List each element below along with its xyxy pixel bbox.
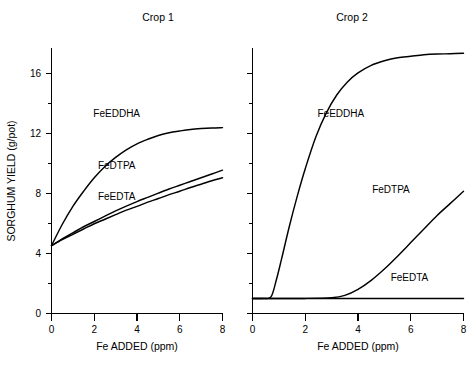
y-tick-label-0: 0 bbox=[35, 308, 41, 319]
x-tick-label-0: 0 bbox=[250, 324, 256, 335]
y-axis-title: SORGHUM YIELD (g/pot) bbox=[5, 120, 17, 241]
panel-1-curves bbox=[52, 128, 223, 246]
panel-2-y-major-ticks bbox=[247, 74, 253, 314]
curve-crop1-feedta bbox=[52, 178, 223, 246]
curve-crop2-fedtpa bbox=[253, 191, 464, 298]
panel-1-y-tick-labels: 0 4 8 12 16 bbox=[30, 68, 42, 319]
series-label-crop2-feedta: FeEDTA bbox=[391, 272, 429, 283]
chart-svg: Crop 1 SORGHUM YIELD (g/pot) bbox=[0, 0, 474, 371]
series-label-crop1-feeddha: FeEDDHA bbox=[93, 108, 140, 119]
panel-2-series-labels: FeEDDHA FeDTPA FeEDTA bbox=[318, 108, 429, 283]
x-tick-label-6: 6 bbox=[408, 324, 414, 335]
panel-1-title: Crop 1 bbox=[142, 11, 174, 23]
sorghum-yield-figure: Crop 1 SORGHUM YIELD (g/pot) bbox=[0, 0, 474, 371]
x-tick-label-0: 0 bbox=[49, 324, 55, 335]
x-tick-label-2: 2 bbox=[302, 324, 308, 335]
curve-crop2-feeddha bbox=[253, 53, 464, 298]
panel-2-x-tick-labels: 0 2 4 6 8 bbox=[250, 324, 467, 335]
curve-crop1-fedtpa bbox=[52, 170, 223, 245]
panel-1-x-axis-title: Fe ADDED (ppm) bbox=[96, 340, 178, 352]
x-tick-label-6: 6 bbox=[177, 324, 183, 335]
x-tick-label-4: 4 bbox=[355, 324, 361, 335]
y-tick-label-8: 8 bbox=[35, 188, 41, 199]
series-label-crop2-feeddha: FeEDDHA bbox=[318, 108, 365, 119]
y-tick-label-4: 4 bbox=[35, 248, 41, 259]
panel-2-x-axis-title: Fe ADDED (ppm) bbox=[317, 340, 399, 352]
panel-crop-2: Crop 2 bbox=[247, 11, 467, 352]
panel-2-curves bbox=[253, 53, 464, 298]
panel-2-x-major-ticks bbox=[253, 314, 464, 321]
panel-1-series-labels: FeEDDHA FeDTPA FeEDTA bbox=[93, 108, 140, 201]
y-tick-label-12: 12 bbox=[30, 128, 42, 139]
panel-crop-1: Crop 1 SORGHUM YIELD (g/pot) bbox=[5, 11, 226, 352]
series-label-crop1-feedta: FeEDTA bbox=[98, 191, 136, 202]
series-label-crop1-fedtpa: FeDTPA bbox=[98, 160, 136, 171]
panel-1-y-major-ticks bbox=[46, 74, 52, 314]
x-tick-label-8: 8 bbox=[461, 324, 467, 335]
panel-1-x-tick-labels: 0 2 4 6 8 bbox=[49, 324, 226, 335]
panel-1-x-major-ticks bbox=[52, 314, 223, 321]
x-tick-label-4: 4 bbox=[134, 324, 140, 335]
y-tick-label-16: 16 bbox=[30, 68, 42, 79]
x-tick-label-8: 8 bbox=[220, 324, 226, 335]
x-tick-label-2: 2 bbox=[91, 324, 97, 335]
curve-crop1-feeddha bbox=[52, 128, 223, 246]
series-label-crop2-fedtpa: FeDTPA bbox=[372, 184, 410, 195]
panel-2-title: Crop 2 bbox=[336, 11, 368, 23]
